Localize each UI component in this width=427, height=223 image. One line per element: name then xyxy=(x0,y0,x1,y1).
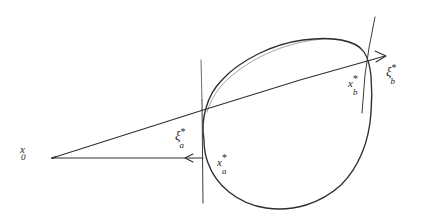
label-xi-star-b-sub: b xyxy=(391,76,396,86)
label-xi-star-a-sup: * xyxy=(181,126,186,137)
upper-ray-line xyxy=(52,56,385,158)
label-xi-star-a-sub: a xyxy=(180,140,185,150)
origin-vertex-mark xyxy=(52,157,56,158)
label-x-zero: x0 xyxy=(20,140,29,159)
label-x-star-b-sup: * xyxy=(353,73,358,84)
label-x-star-b: x*b xyxy=(348,73,362,94)
diagram-svg xyxy=(0,0,427,223)
right-supporting-line xyxy=(362,17,375,113)
label-xi-star-a: ξ*a xyxy=(175,126,190,147)
label-x-star-a: x*a xyxy=(217,152,231,173)
upper-ray-arrowhead-icon xyxy=(375,51,386,62)
label-xi-star-b: ξ*b xyxy=(386,62,401,83)
label-x-star-a-sup: * xyxy=(222,152,227,163)
label-x-star-a-sub: a xyxy=(222,166,227,176)
label-x-zero-sub: 0 xyxy=(21,152,26,162)
left-supporting-line xyxy=(202,100,203,203)
convex-set-outline-texture xyxy=(207,39,360,112)
left-supporting-line-upper xyxy=(201,60,202,100)
convex-set-outline xyxy=(203,39,372,210)
figure-canvas: x0 ξ*a ξ*b x*a x*b xyxy=(0,0,427,223)
label-x-star-b-sub: b xyxy=(353,87,358,97)
label-xi-star-b-sup: * xyxy=(392,62,397,73)
